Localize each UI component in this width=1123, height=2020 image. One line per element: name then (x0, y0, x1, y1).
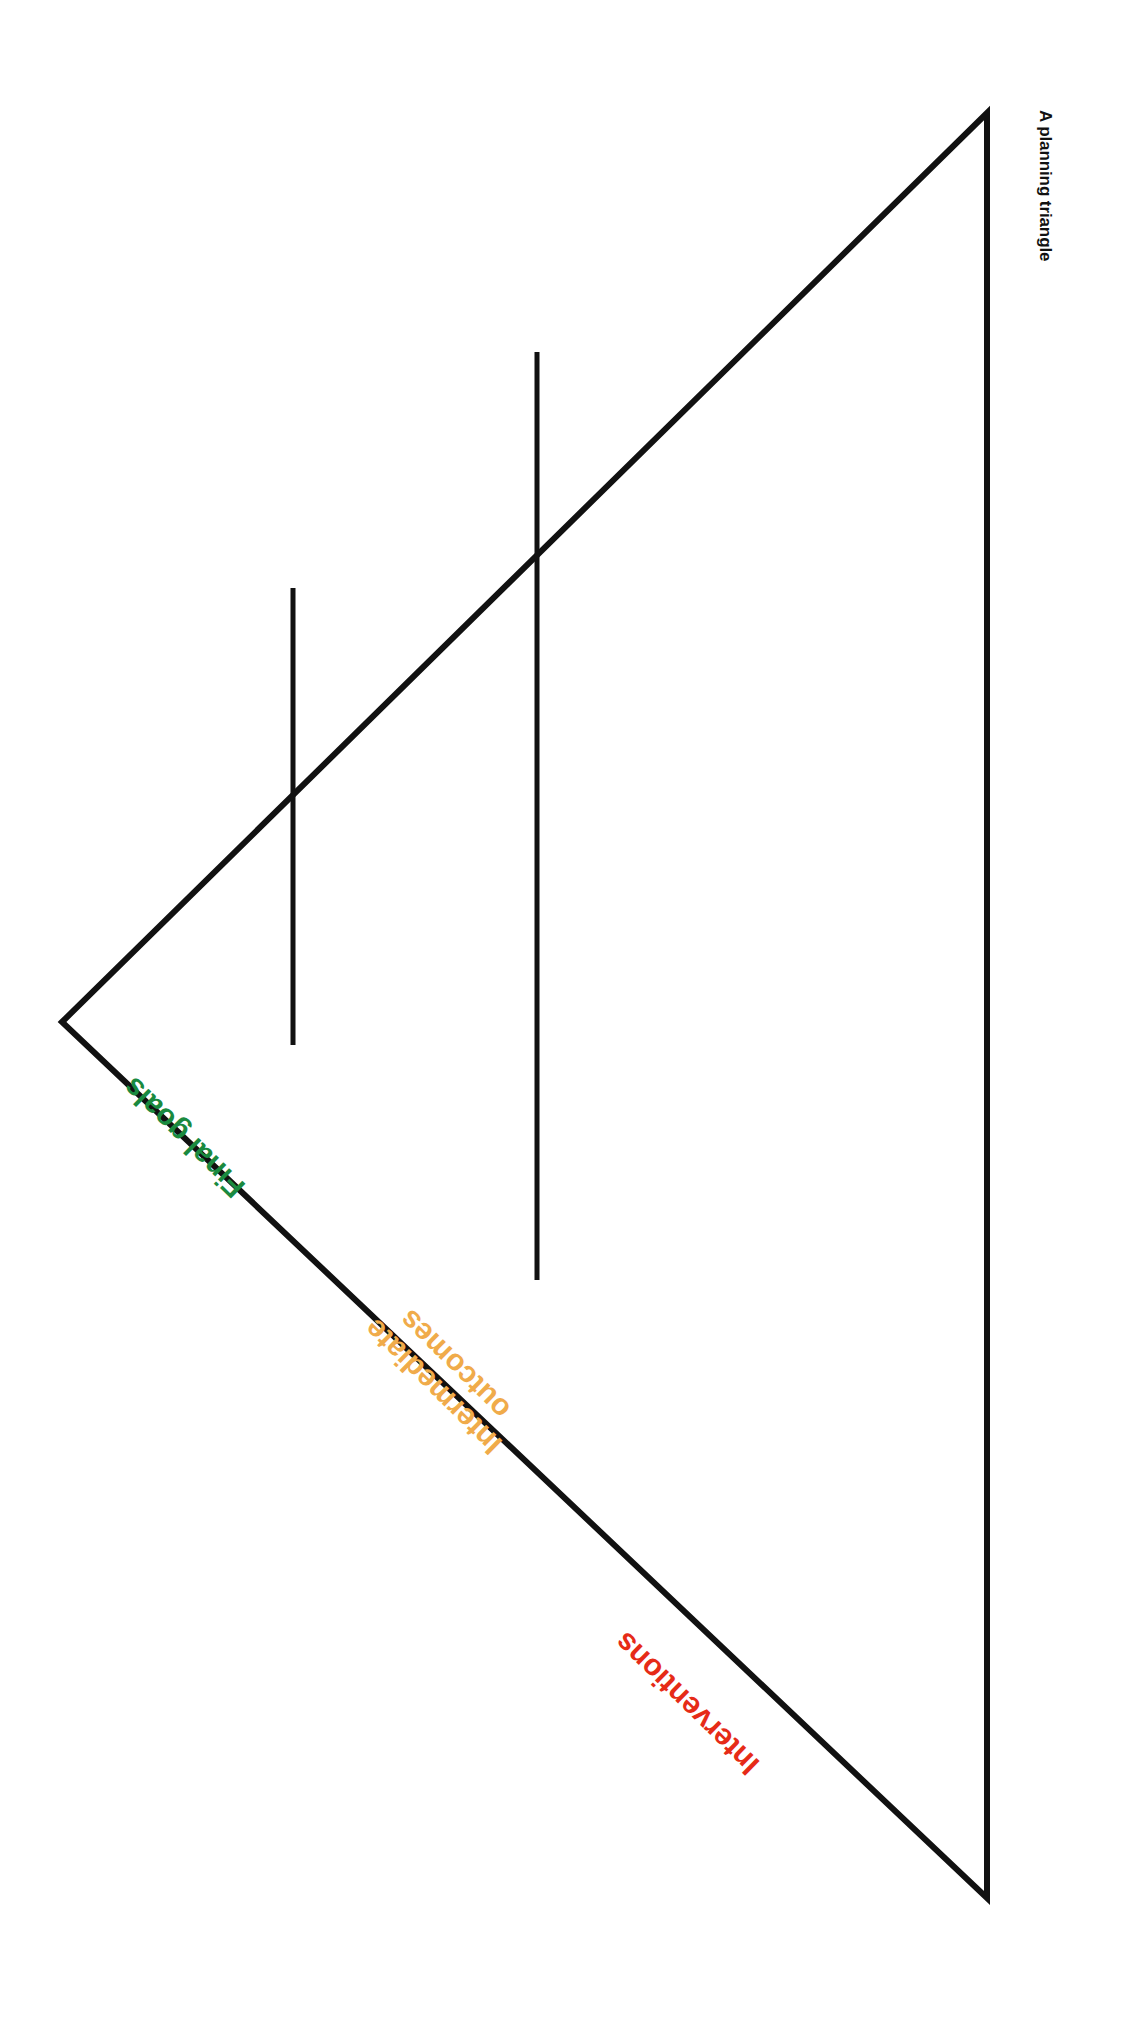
figure-caption-text: A planning triangle (1035, 110, 1055, 261)
planning-triangle-figure: Final goals Intermediate outcomes Interv… (0, 0, 1123, 2020)
figure-caption: A planning triangle (1036, 110, 1060, 360)
triangle-canvas (0, 0, 1123, 2020)
triangle-outline (62, 113, 987, 1898)
